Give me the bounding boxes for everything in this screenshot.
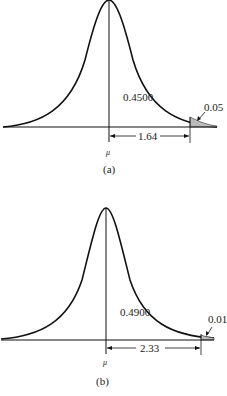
panel-a-central-area-label: 0.4500	[123, 91, 153, 103]
panel-b-tail-area-label: 0.01	[208, 313, 227, 325]
panel-a-caption: (a)	[103, 163, 115, 175]
panel-b-distance-label: 2.33	[140, 342, 159, 354]
normal-curves-figure	[0, 0, 227, 396]
panel-b-mu-label: μ	[103, 358, 107, 367]
panel-b-caption: (b)	[96, 375, 109, 387]
panel-a-curve	[3, 0, 217, 143]
panel-b-curve	[1, 208, 214, 355]
panel-a-tail-shade	[190, 117, 217, 127]
panel-a-mu-label: μ	[106, 148, 110, 157]
panel-b-central-area-label: 0.4900	[120, 306, 150, 318]
panel-a-tail-area-label: 0.05	[204, 101, 223, 113]
panel-a-distance-label: 1.64	[138, 130, 157, 142]
panel-b-tail-shade	[201, 335, 214, 340]
